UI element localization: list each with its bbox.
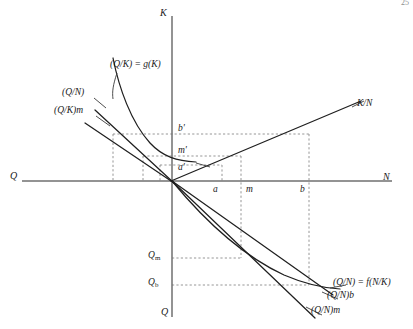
production-function-diagram: 25 xyxy=(0,0,413,329)
label-g-curve: (Q/K) = g(K) xyxy=(110,60,161,70)
leader-lines xyxy=(94,73,364,315)
tick-label-q-m: Qm xyxy=(148,251,160,261)
axis-label-q-left: Q xyxy=(10,171,17,181)
leader-qn xyxy=(94,98,106,108)
label-q-over-k-m: (Q/K)m xyxy=(54,106,83,116)
tick-label-m: m xyxy=(246,185,253,195)
tick-label-a: a xyxy=(213,185,218,195)
tick-label-m-prime: m' xyxy=(178,146,187,156)
construction-lines xyxy=(113,134,309,285)
line-q-over-k-m xyxy=(85,123,174,183)
axis-label-q-bottom: Q xyxy=(161,307,168,317)
axis-label-k: K xyxy=(160,8,167,18)
axis-label-n: N xyxy=(383,172,390,182)
line-q-over-n-b xyxy=(172,181,333,295)
label-q-over-n: (Q/N) xyxy=(62,88,84,98)
label-q-over-n-b: (Q/N)b xyxy=(327,291,354,301)
label-f-curve: (Q/N) = f(N/K) xyxy=(333,278,391,288)
curves xyxy=(85,58,361,318)
tick-label-q-b-base: Q xyxy=(148,277,155,287)
curve-f-of-n-over-k xyxy=(172,181,340,289)
leader-g-curve xyxy=(113,73,117,99)
tick-label-q-m-base: Q xyxy=(148,250,155,260)
tick-label-q-m-sub: m xyxy=(155,254,160,262)
tick-label-a-prime: a' xyxy=(178,163,185,173)
tick-label-b-prime: b' xyxy=(178,124,185,134)
tick-label-q-b-sub: b xyxy=(155,281,159,289)
label-k-over-n: K/N xyxy=(357,99,372,109)
ray-k-over-n xyxy=(171,101,361,181)
tick-label-b: b xyxy=(300,185,305,195)
tick-label-q-b: Qb xyxy=(148,278,158,288)
line-q-over-n-m xyxy=(172,181,315,318)
label-q-over-n-m: (Q/N)m xyxy=(311,306,340,316)
